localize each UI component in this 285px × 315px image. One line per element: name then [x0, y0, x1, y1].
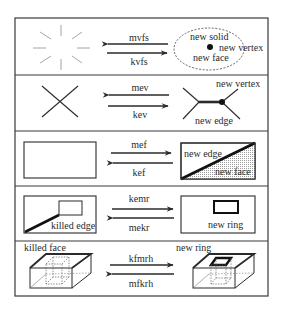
inverse-op-label: mekr	[129, 222, 150, 233]
forward-op-label: mef	[131, 139, 147, 150]
row-kfmrh: killed face kfmrh mfkrh new r	[24, 242, 254, 289]
new-face-label: new face	[193, 52, 229, 63]
forward-op-label: kemr	[129, 193, 150, 204]
vertex-dot-icon	[219, 99, 225, 105]
forward-op-label: kfmrh	[129, 253, 153, 264]
row-kemr: killed edge kemr mekr new ring	[24, 193, 255, 233]
forward-op-label: mvfs	[129, 32, 149, 43]
vertex-cross-icon	[42, 86, 78, 117]
solid-with-face-icon	[30, 254, 91, 288]
new-edge-label: new edge	[195, 115, 234, 126]
new-ring-label: new ring	[176, 242, 211, 253]
vertex-dot-icon	[207, 44, 213, 50]
row-mvfs: mvfs kvfs new solid new vertex new face	[33, 25, 263, 70]
empty-space-icon	[33, 25, 90, 70]
new-solid-label: new solid	[190, 31, 229, 42]
face-rect	[24, 142, 96, 178]
killed-face-label: killed face	[24, 242, 66, 253]
killed-edge-label: killed edge	[51, 220, 96, 231]
new-ring-rect	[214, 201, 238, 213]
euler-operators-diagram: mvfs kvfs new solid new vertex new face …	[0, 0, 285, 315]
inner-ring-rect	[59, 201, 82, 215]
new-face-label: new face	[215, 166, 251, 177]
solid-with-hole-icon	[193, 254, 254, 288]
inverse-op-label: kvfs	[130, 56, 147, 67]
row-mef: mef kef new edge new face	[24, 139, 255, 179]
new-vertex-label: new vertex	[216, 78, 260, 89]
inverse-op-label: kef	[133, 167, 146, 178]
forward-op-label: mev	[131, 82, 148, 93]
new-edge-label: new edge	[184, 148, 223, 159]
new-ring-label: new ring	[208, 219, 243, 230]
inverse-op-label: kev	[133, 109, 147, 120]
row-mev: mev kev new vertex new edge	[42, 78, 260, 126]
inverse-op-label: mfkrh	[129, 278, 153, 289]
